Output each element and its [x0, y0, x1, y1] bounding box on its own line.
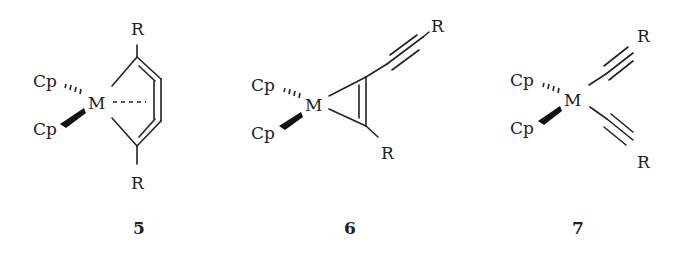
- substituent-r-bottom: R: [381, 143, 395, 163]
- cp-ligand-lower: Cp: [33, 119, 57, 139]
- compound-label: 7: [572, 218, 584, 238]
- metal-atom: M: [88, 93, 105, 113]
- triple-bond-upper-outer: [604, 47, 628, 66]
- bond-m-c4: [112, 118, 137, 146]
- hashed-bond: [65, 84, 81, 94]
- triple-bond-lower: [392, 50, 419, 70]
- metal-atom: M: [305, 95, 322, 115]
- triple-bond-upper-inner: [609, 61, 633, 80]
- compound-label: 5: [133, 218, 145, 238]
- bond-m-c1: [112, 57, 137, 86]
- wedge-bond: [60, 108, 86, 128]
- substituent-r-bottom: R: [637, 152, 651, 172]
- compound-label: 6: [344, 218, 356, 238]
- bond-c2-r: [366, 126, 378, 137]
- bond-c3-c4-inner: [139, 119, 155, 137]
- cp-ligand-lower: Cp: [251, 123, 275, 143]
- bond-alkyne-r: [423, 32, 429, 37]
- cp-ligand-upper: Cp: [510, 70, 534, 90]
- bond-c1-c2-inner: [139, 66, 155, 81]
- cp-ligand-lower: Cp: [510, 118, 534, 138]
- triple-bond-lower-outer: [604, 127, 626, 145]
- metal-atom: M: [564, 90, 581, 110]
- substituent-r-top: R: [637, 26, 651, 46]
- bond-m-c2: [329, 109, 366, 126]
- structure-7: Cp Cp M R R 7: [510, 26, 651, 238]
- structure-6: Cp Cp M R R 6: [251, 16, 445, 238]
- substituent-r-top: R: [431, 16, 445, 36]
- wedge-bond: [279, 112, 303, 130]
- cp-ligand-upper: Cp: [251, 75, 275, 95]
- wedge-bond: [538, 106, 562, 125]
- cp-ligand-upper: Cp: [33, 71, 57, 91]
- substituent-r-bottom: R: [131, 173, 145, 193]
- structure-5: Cp Cp M R R 5: [33, 19, 161, 238]
- bond-m-c1: [329, 77, 366, 96]
- hashed-bond: [284, 88, 300, 98]
- bond-m-alkyne-lower: [590, 107, 607, 119]
- triple-bond-lower-inner: [611, 114, 633, 132]
- bond-c1-alkyne: [366, 64, 387, 77]
- substituent-r-top: R: [131, 19, 145, 39]
- chemical-structures-figure: Cp Cp M R R 5 Cp Cp: [0, 0, 679, 255]
- hashed-bond: [543, 83, 559, 93]
- bond-m-alkyne-upper: [589, 74, 606, 85]
